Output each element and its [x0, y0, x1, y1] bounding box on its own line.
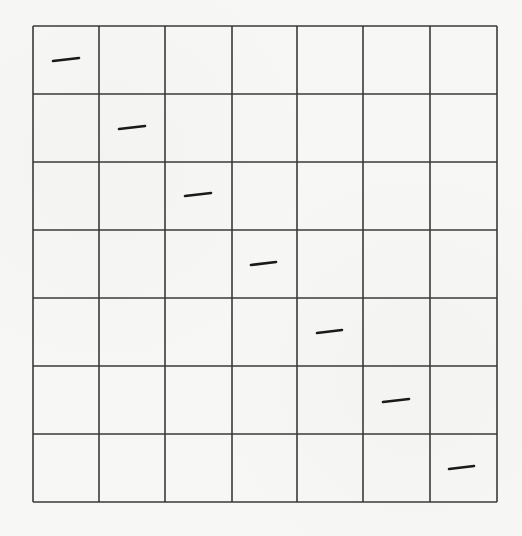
dash-mark-r5-c5 — [383, 399, 409, 402]
dash-mark-r0-c0 — [53, 58, 79, 61]
dash-mark-r6-c6 — [449, 466, 474, 469]
dash-mark-r3-c3 — [251, 262, 276, 265]
dash-mark-r4-c4 — [317, 330, 342, 333]
grid-diagram-canvas — [0, 0, 522, 536]
dash-mark-r2-c2 — [185, 193, 211, 196]
dash-mark-r1-c1 — [119, 126, 145, 129]
grid-diagram — [0, 0, 522, 536]
diagonal-marks — [53, 58, 474, 469]
